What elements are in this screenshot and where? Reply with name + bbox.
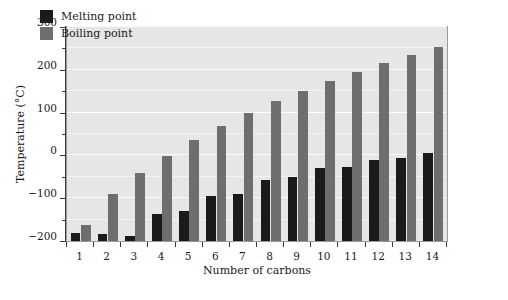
y-axis-title-wrap: Temperature (°C) [26, 0, 27, 300]
bar-boiling-c1 [81, 225, 91, 241]
legend-label-boiling-point: Boiling point [61, 27, 133, 40]
x-tick-label: 6 [212, 250, 219, 262]
x-tick-label: 11 [344, 250, 357, 262]
x-tick-label: 1 [76, 250, 83, 262]
bar-boiling-c12 [379, 63, 389, 241]
x-tick [120, 242, 121, 247]
plot-panel [66, 26, 448, 242]
y-axis: 3002001000−100−200 [60, 26, 66, 242]
x-tick [66, 242, 67, 247]
x-tick [283, 242, 284, 247]
x-tick-label: 5 [185, 250, 192, 262]
x-tick [392, 242, 393, 247]
x-tick-label: 3 [131, 250, 138, 262]
x-tick-label: 10 [317, 250, 330, 262]
x-tick-label: 2 [103, 250, 110, 262]
bar-melting-c5 [179, 211, 189, 241]
legend-item-melting-point: Melting point [40, 8, 137, 25]
y-tick-minor [62, 134, 66, 135]
bar-boiling-c3 [135, 173, 145, 241]
x-tick [202, 242, 203, 247]
bar-boiling-c13 [407, 55, 417, 241]
x-axis-title: Number of carbons [66, 264, 448, 277]
y-tick-minor [62, 177, 66, 178]
x-axis: 1234567891011121314 [66, 242, 448, 248]
bar-melting-c12 [369, 160, 379, 241]
y-tick-minor [62, 220, 66, 221]
bar-melting-c3 [125, 236, 135, 241]
bar-boiling-c10 [325, 81, 335, 241]
legend-swatch-boiling-point [40, 27, 53, 40]
x-tick [419, 242, 420, 247]
legend-label-melting-point: Melting point [61, 10, 137, 23]
x-tick [365, 242, 366, 247]
chart-figure: 3002001000−100−200 1234567891011121314 T… [0, 0, 508, 300]
bar-boiling-c8 [271, 101, 281, 241]
x-tick-label: 14 [426, 250, 439, 262]
x-tick [337, 242, 338, 247]
x-tick-label: 8 [266, 250, 273, 262]
y-tick-label: 0 [50, 144, 57, 156]
bar-boiling-c7 [244, 113, 254, 241]
y-tick-label: 200 [37, 59, 57, 71]
x-tick [256, 242, 257, 247]
bar-melting-c13 [396, 158, 406, 241]
y-tick [60, 155, 66, 156]
x-tick-label: 7 [239, 250, 246, 262]
x-tick [147, 242, 148, 247]
bar-melting-c8 [261, 180, 271, 241]
y-tick-label: 100 [37, 102, 57, 114]
bar-melting-c14 [423, 153, 433, 241]
x-tick [310, 242, 311, 247]
bar-melting-c7 [233, 194, 243, 241]
y-tick [60, 198, 66, 199]
y-tick-minor [62, 48, 66, 49]
bar-boiling-c14 [434, 47, 444, 241]
y-tick [60, 113, 66, 114]
y-tick-minor [62, 91, 66, 92]
y-tick [60, 70, 66, 71]
bar-melting-c6 [206, 196, 216, 241]
bar-melting-c1 [71, 233, 81, 241]
y-tick-label: −100 [28, 187, 57, 199]
x-tick [229, 242, 230, 247]
bar-boiling-c6 [217, 126, 227, 241]
bar-melting-c9 [288, 177, 298, 241]
y-axis-title: Temperature (°C) [14, 4, 27, 264]
bar-melting-c11 [342, 167, 352, 241]
bar-melting-c2 [98, 234, 108, 241]
bar-boiling-c9 [298, 91, 308, 241]
legend-swatch-melting-point [40, 10, 53, 23]
x-tick-label: 4 [158, 250, 165, 262]
x-tick-label: 9 [293, 250, 300, 262]
x-tick [446, 242, 447, 247]
bar-melting-c4 [152, 214, 162, 241]
x-tick-label: 12 [371, 250, 384, 262]
x-tick [175, 242, 176, 247]
bar-boiling-c2 [108, 194, 118, 242]
x-tick-label: 13 [399, 250, 412, 262]
bar-boiling-c4 [162, 156, 172, 241]
y-tick-label: −200 [28, 230, 57, 242]
bar-boiling-c11 [352, 72, 362, 241]
bar-boiling-c5 [189, 140, 199, 241]
x-tick [93, 242, 94, 247]
bar-series-container [67, 27, 447, 241]
legend: Melting point Boiling point [40, 8, 137, 42]
bar-melting-c10 [315, 168, 325, 241]
legend-item-boiling-point: Boiling point [40, 25, 137, 42]
